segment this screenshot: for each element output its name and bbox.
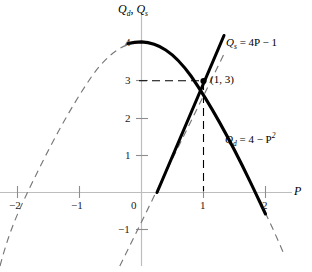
- chart-figure: Qd, Qs P Qs = 4P − 1 Qd = 4 − P2 (1, 3) …: [0, 0, 312, 272]
- y-tick-label--1: −1: [118, 224, 130, 235]
- demand-eq-rest: = 4 − P: [237, 133, 272, 145]
- supply-eq-q: Q: [226, 36, 234, 48]
- supply-equation-label: Qs = 4P − 1: [226, 37, 277, 51]
- y-tick-label-1: 1: [125, 150, 131, 161]
- x-axis-title: P: [294, 185, 301, 197]
- y-axis-title-q2: Q: [136, 2, 145, 16]
- y-axis-title-q1: Q: [118, 2, 127, 16]
- x-tick-label-0: 0: [131, 200, 137, 211]
- demand-eq-exponent: 2: [272, 131, 276, 140]
- y-axis-title-sub-s: s: [145, 9, 148, 18]
- y-axis-title: Qd, Qs: [118, 3, 148, 18]
- demand-equation-label: Qd = 4 − P2: [225, 132, 275, 147]
- x-tick-label--2: −2: [9, 200, 21, 211]
- y-tick-label-2: 2: [125, 113, 131, 124]
- x-tick-label--1: −1: [71, 200, 83, 211]
- equilibrium-point-marker: [200, 78, 206, 84]
- supply-eq-rest: = 4P − 1: [237, 36, 277, 48]
- y-tick-label-3: 3: [125, 75, 131, 86]
- demand-eq-q: Q: [225, 133, 233, 145]
- y-tick-label-4: 4: [125, 37, 131, 48]
- x-tick-label-1: 1: [200, 200, 206, 211]
- equilibrium-point-label: (1, 3): [210, 74, 234, 85]
- x-tick-label-2: 2: [262, 200, 268, 211]
- demand-curve-solid: [128, 42, 266, 214]
